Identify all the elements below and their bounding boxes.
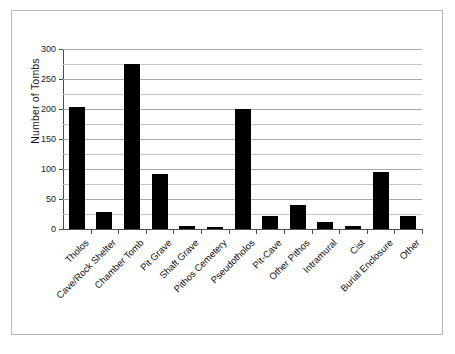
- x-axis-tick: [91, 230, 92, 234]
- bar-other: [400, 216, 416, 229]
- x-axis-tick: [422, 230, 423, 234]
- y-axis-tick-label: 150: [41, 135, 56, 144]
- y-axis-tick: [59, 139, 63, 140]
- plot-area: [63, 49, 422, 229]
- x-axis-tick: [284, 230, 285, 234]
- y-axis-tick-label: 50: [46, 195, 56, 204]
- bar-tholos: [69, 107, 85, 229]
- y-axis-tick: [59, 79, 63, 80]
- bar-chamber-tomb: [124, 64, 140, 229]
- bar-pit-grave: [152, 174, 168, 229]
- y-axis-tick: [59, 229, 63, 230]
- figure-frame: Number of Tombs 050100150200250300 Tholo…: [11, 10, 443, 335]
- gridline-major: [63, 79, 422, 80]
- bar-pithos-cemetery: [207, 227, 223, 229]
- gridline-major: [63, 49, 422, 50]
- bar-cist: [345, 226, 361, 229]
- y-axis-tick-label: 300: [41, 45, 56, 54]
- x-axis-tick: [256, 230, 257, 234]
- x-axis-tick: [146, 230, 147, 234]
- x-axis-tick: [312, 230, 313, 234]
- bar-pit-cave: [262, 216, 278, 229]
- y-axis-tick: [59, 199, 63, 200]
- bar-chart: Number of Tombs 050100150200250300 Tholo…: [12, 11, 444, 336]
- bar-other-pithos: [290, 205, 306, 229]
- bar-pseudotholos: [235, 109, 251, 229]
- y-axis-tick: [59, 49, 63, 50]
- x-axis-tick: [367, 230, 368, 234]
- y-axis-tick-label: 0: [51, 225, 56, 234]
- gridline-minor: [63, 94, 422, 95]
- x-axis-tick: [339, 230, 340, 234]
- y-axis-tick: [59, 169, 63, 170]
- bar-cave-rock-shelter: [96, 212, 112, 229]
- x-axis-tick: [118, 230, 119, 234]
- x-axis-tick: [229, 230, 230, 234]
- x-axis-line: [63, 229, 423, 230]
- bar-intramural: [317, 222, 333, 229]
- y-axis-tick: [59, 109, 63, 110]
- bar-burial-enclosure: [373, 172, 389, 229]
- y-axis-tick-label: 200: [41, 105, 56, 114]
- y-axis-tick-label: 100: [41, 165, 56, 174]
- y-axis-tick-label: 250: [41, 75, 56, 84]
- x-axis-tick: [394, 230, 395, 234]
- bar-shaft-grave: [179, 226, 195, 229]
- gridline-minor: [63, 64, 422, 65]
- x-axis-tick: [173, 230, 174, 234]
- x-axis-tick: [201, 230, 202, 234]
